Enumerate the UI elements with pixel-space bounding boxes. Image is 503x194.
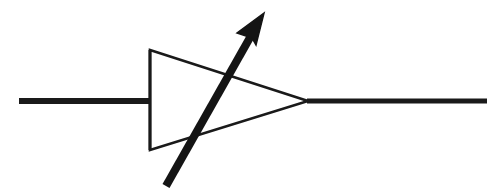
schematic-figure [0,0,503,194]
variable-diode-symbol [0,0,503,194]
